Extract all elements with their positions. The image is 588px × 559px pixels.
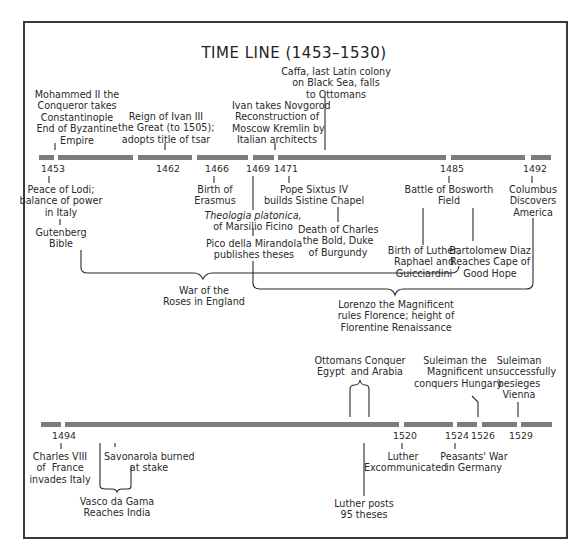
year-1526: 1526 [471,430,495,441]
event-peace-of-lodi: Peace of Lodi; balance of power in Italy [14,184,108,218]
event-luther-95-theses: Luther posts 95 theses [333,498,395,521]
year-1471: 1471 [274,163,298,174]
event-bosworth: Battle of Bosworth Field [400,184,498,207]
event-columbus: Columbus Discovers America [505,184,561,218]
event-savonarola: Savonarola burned at stake [104,451,194,474]
event-peasants-war: Peasants' War in Germany [440,451,508,474]
event-gutenberg-bible: Gutenberg Bible [34,227,88,250]
event-suleiman-vienna: Suleiman unsuccessfully besieges Vienna [486,355,552,401]
event-vasco-da-gama: Vasco da Gama Reaches India [76,496,158,519]
event-pico-theses: Pico della Mirandola publishes theses [200,238,308,261]
year-1462: 1462 [156,163,180,174]
year-1453: 1453 [41,163,65,174]
year-1524: 1524 [445,430,469,441]
year-1466: 1466 [205,163,229,174]
event-death-charles-bold: Death of Charles the Bold, Duke of Burgu… [298,224,378,258]
event-theologia-platonica-author: of Marsilio Ficino [202,221,304,232]
year-1520: 1520 [393,430,417,441]
event-birth-erasmus: Birth of Erasmus [190,184,240,207]
event-theologia-platonica-title: Theologia platonica, [202,210,304,221]
event-luther-excommunicated: Luther Excommunicated [364,451,442,474]
event-diaz-cape: Bartolomew Diaz Reaches Cape of Good Hop… [448,245,532,279]
year-1485: 1485 [440,163,464,174]
event-caffa-falls: Caffa, last Latin colony on Black Sea, f… [278,66,394,100]
year-1494: 1494 [52,430,76,441]
event-lorenzo-florence: Lorenzo the Magnificent rules Florence; … [330,299,462,333]
event-ivan-iii-reign: Reign of Ivan III the Great (to 1505); a… [118,111,214,145]
event-charles-viii-invades: Charles VIII of France invades Italy [28,451,92,485]
event-sixtus-sistine: Pope Sixtus IV builds Sistine Chapel [256,184,372,207]
event-ottomans-egypt-arabia: Ottomans Conquer Egypt and Arabia [312,355,408,378]
year-1529: 1529 [509,430,533,441]
year-1469: 1469 [246,163,270,174]
event-ivan-novgorod: Ivan takes Novgorod Reconstruction of Mo… [232,100,322,146]
year-1492: 1492 [523,163,547,174]
event-mohammed-constantinople: Mohammed II the Conqueror takes Constant… [32,89,122,146]
event-suleiman-hungary: Suleiman the Magnificent conquers Hungar… [414,355,496,389]
event-war-of-roses: War of the Roses in England [160,285,248,308]
